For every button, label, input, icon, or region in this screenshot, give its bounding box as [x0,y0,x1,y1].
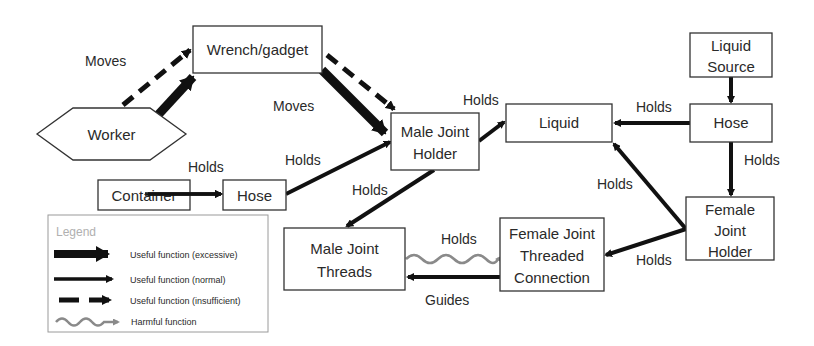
legend-label: Useful function (normal) [130,275,226,285]
node-label: Hose [713,114,748,131]
function-diagram: Wrench/gadget Worker Male Joint Holder L… [0,0,814,346]
edge-wrench-mjh-excessive [322,70,385,133]
node-wrench-gadget: Wrench/gadget [193,26,322,73]
node-label-line2: Source [707,58,755,75]
legend-label: Harmful function [131,317,197,327]
legend-title: Legend [56,225,96,239]
node-liquid: Liquid [506,104,612,142]
edge-label-holds-hose-mjh: Holds [285,152,321,168]
node-male-joint-holder: Male Joint Holder [391,113,479,170]
edge-label-holds-hose-fjh: Holds [744,152,780,168]
edge-mjt-ftc-harmful [406,255,498,263]
edge-worker-wrench-excessive [158,77,193,115]
node-label-line3: Connection [514,269,590,286]
node-female-joint-holder: Female Joint Holder [686,197,774,260]
node-label: Wrench/gadget [207,41,309,58]
node-hose-right: Hose [690,104,772,142]
node-label-line2: Holder [413,145,457,162]
legend: Legend Useful function (excessive) Usefu… [48,215,268,332]
node-hose-left: Hose [223,180,286,210]
edge-label-holds-mjh-liquid: Holds [463,92,499,108]
edge-label-guides: Guides [425,292,469,308]
edge-label-moves-wrench: Moves [273,98,314,114]
edge-label-moves-worker: Moves [85,53,126,69]
node-label-line1: Liquid [711,37,751,54]
node-male-joint-threads: Male Joint Threads [284,228,405,290]
edge-label-holds-fjh-liquid: Holds [597,176,633,192]
edge-label-holds-mjh-mjt: Holds [352,182,388,198]
legend-label: Useful function (excessive) [130,250,238,260]
node-label: Worker [87,126,135,143]
edge-mjh-liquid [479,122,504,141]
node-label-line3: Holder [708,243,752,260]
node-label: Liquid [539,114,579,131]
node-label-line2: Joint [714,222,747,239]
edge-label-holds-container-hose: Holds [188,159,224,175]
edge-label-holds-hose-liquid: Holds [636,99,672,115]
legend-label: Useful function (insufficient) [130,296,240,306]
edge-label-holds-harmful: Holds [441,231,477,247]
node-female-threaded-connection: Female Joint Threaded Connection [500,218,604,291]
edge-mjh-mjt [347,170,434,226]
node-worker: Worker [37,108,186,160]
node-label-line1: Male Joint [310,240,379,257]
node-label-line2: Threads [317,263,372,280]
edge-label-holds-fjh-ftc: Holds [636,252,672,268]
node-label-line1: Female [705,201,755,218]
node-label-line1: Female Joint [509,225,596,242]
node-liquid-source: Liquid Source [690,33,772,77]
node-label-line2: Threaded [520,247,584,264]
node-label-line1: Male Joint [401,123,470,140]
node-label: Hose [237,187,272,204]
